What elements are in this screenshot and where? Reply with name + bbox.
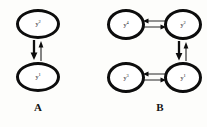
arrow-a-up-icon: [39, 41, 44, 61]
node-b-y2[interactable]: y2: [164, 9, 202, 40]
arrow-b-bottom-right-icon: [143, 78, 166, 83]
arrow-pair-b-vertical-svg: [173, 41, 193, 61]
panel-a-caption: A: [28, 101, 48, 113]
arrow-pair-a-vertical-svg: [28, 40, 48, 61]
arrow-a-down-icon: [31, 40, 38, 60]
arrow-b-up-icon: [184, 42, 189, 61]
panel-b-caption: B: [150, 101, 170, 113]
node-b-y4-label: y4: [123, 21, 128, 27]
node-b-y3[interactable]: y3: [107, 62, 145, 93]
arrow-pair-b-bottom: [143, 71, 166, 84]
node-a-y1-label: y1: [35, 74, 40, 80]
arrow-pair-b-top-svg: [143, 18, 166, 31]
arrow-b-down-icon: [176, 41, 183, 61]
arrow-pair-b-vertical: [173, 41, 193, 61]
arrow-pair-a-vertical: [28, 40, 48, 61]
node-b-y3-label: y3: [123, 74, 128, 80]
figure-canvas: y2 y1 A y4: [0, 0, 207, 127]
node-b-y1[interactable]: y1: [164, 62, 202, 93]
node-a-y1[interactable]: y1: [16, 62, 60, 92]
arrow-b-top-left-icon: [143, 19, 166, 24]
node-b-y1-superscript: 1: [183, 72, 185, 77]
node-a-y2-label: y2: [35, 21, 40, 27]
arrow-pair-b-bottom-svg: [143, 71, 166, 84]
node-b-y2-label: y2: [180, 21, 185, 27]
node-a-y1-superscript: 1: [38, 72, 40, 77]
node-b-y4-superscript: 4: [126, 19, 128, 24]
node-b-y2-superscript: 2: [183, 19, 185, 24]
panel-b: y4 y2 y3 y1: [104, 0, 207, 127]
node-b-y1-label: y1: [180, 74, 185, 80]
arrow-b-bottom-left-icon: [143, 72, 166, 77]
arrow-pair-b-top: [143, 18, 166, 31]
node-b-y3-superscript: 3: [126, 72, 128, 77]
arrow-b-top-right-icon: [143, 25, 166, 30]
node-a-y2[interactable]: y2: [16, 9, 60, 39]
node-a-y2-superscript: 2: [38, 19, 40, 24]
panel-a: y2 y1 A: [0, 0, 104, 127]
node-b-y4[interactable]: y4: [107, 9, 145, 40]
